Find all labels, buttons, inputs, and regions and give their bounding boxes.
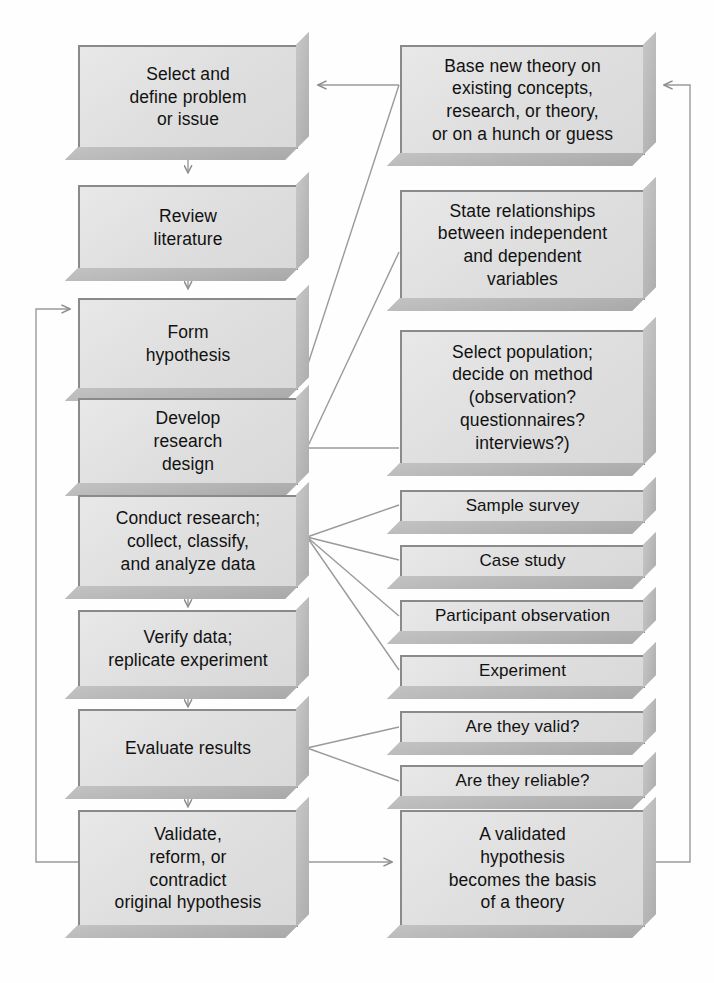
node-label: Are they reliable? — [408, 770, 637, 792]
link-basetheory-to-form — [307, 85, 399, 367]
node-label: Experiment — [408, 660, 637, 682]
node-label: Select anddefine problemor issue — [86, 63, 290, 131]
fan-evaluate-questions — [307, 727, 399, 781]
node-evaluate-results[interactable]: Evaluate results — [78, 709, 298, 788]
node-label: Reviewliterature — [86, 205, 290, 251]
node-label: Validate,reform, orcontradictoriginal hy… — [86, 823, 290, 914]
node-label: Select population;decide on method(obser… — [408, 341, 637, 455]
node-select-define-problem[interactable]: Select anddefine problemor issue — [78, 45, 298, 149]
node-label: Verify data;replicate experiment — [86, 626, 290, 672]
node-label: Are they valid? — [408, 716, 637, 738]
node-label: Participant observation — [408, 605, 637, 627]
flowchart-diagram: Select anddefine problemor issue Reviewl… — [0, 0, 714, 983]
node-form-hypothesis[interactable]: Formhypothesis — [78, 298, 298, 390]
node-conduct-research[interactable]: Conduct research;collect, classify,and a… — [78, 495, 298, 588]
node-state-relationships[interactable]: State relationshipsbetween independentan… — [400, 190, 645, 300]
node-label: Sample survey — [408, 495, 637, 517]
node-label: A validatedhypothesisbecomes the basisof… — [408, 823, 637, 914]
node-label: Formhypothesis — [86, 321, 290, 367]
node-label: State relationshipsbetween independentan… — [408, 200, 637, 291]
node-are-they-valid[interactable]: Are they valid? — [400, 711, 645, 744]
node-are-they-reliable[interactable]: Are they reliable? — [400, 765, 645, 798]
node-label: Conduct research;collect, classify,and a… — [86, 507, 290, 575]
node-case-study[interactable]: Case study — [400, 545, 645, 578]
fan-conduct-methods — [307, 505, 399, 670]
node-review-literature[interactable]: Reviewliterature — [78, 185, 298, 270]
node-validated-hypothesis[interactable]: A validatedhypothesisbecomes the basisof… — [400, 810, 645, 927]
node-base-new-theory[interactable]: Base new theory onexisting concepts,rese… — [400, 45, 645, 155]
feedback-loop-left — [36, 309, 78, 862]
node-label: Developresearchdesign — [86, 407, 290, 475]
node-label: Case study — [408, 550, 637, 572]
node-sample-survey[interactable]: Sample survey — [400, 490, 645, 523]
node-participant-observation[interactable]: Participant observation — [400, 600, 645, 633]
node-develop-research-design[interactable]: Developresearchdesign — [78, 398, 298, 485]
node-verify-data[interactable]: Verify data;replicate experiment — [78, 610, 298, 688]
node-validate-reform[interactable]: Validate,reform, orcontradictoriginal hy… — [78, 810, 298, 927]
node-experiment[interactable]: Experiment — [400, 655, 645, 688]
node-label: Evaluate results — [86, 737, 290, 760]
link-staterel-to-develop — [307, 252, 399, 448]
node-label: Base new theory onexisting concepts,rese… — [408, 55, 637, 146]
node-select-population[interactable]: Select population;decide on method(obser… — [400, 330, 645, 465]
